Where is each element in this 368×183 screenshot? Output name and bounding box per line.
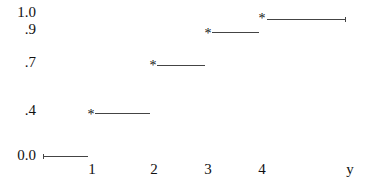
x-tick-label-4: 4: [252, 162, 272, 177]
right-open-end-tick: [345, 17, 346, 22]
step-marker-0.4: *: [86, 108, 96, 122]
x-tick-label-2: 2: [144, 162, 164, 177]
x-tick-label-1: 1: [82, 162, 102, 177]
x-tick-label-3: 3: [198, 162, 218, 177]
step-segment-0.0: [43, 156, 88, 157]
y-tick-label-0.9: .9: [6, 22, 36, 37]
y-tick-label-0.7: .7: [6, 55, 36, 70]
step-segment-1.0: [267, 19, 346, 20]
step-segment-0.7: [157, 65, 205, 66]
step-segment-0.9: [212, 32, 259, 33]
step-marker-1.0: *: [257, 12, 267, 26]
step-marker-0.9: *: [203, 27, 213, 41]
x-axis-label-y: y: [340, 162, 360, 177]
step-function-chart: 1.0 .9 .7 .4 0.0 1 2 3 4 y * * * *: [0, 0, 368, 183]
step-segment-0.4: [95, 113, 150, 114]
step-marker-0.7: *: [148, 59, 158, 73]
y-tick-label-1.0: 1.0: [6, 5, 36, 20]
y-tick-label-0.0: 0.0: [6, 148, 36, 163]
y-tick-label-0.4: .4: [6, 103, 36, 118]
